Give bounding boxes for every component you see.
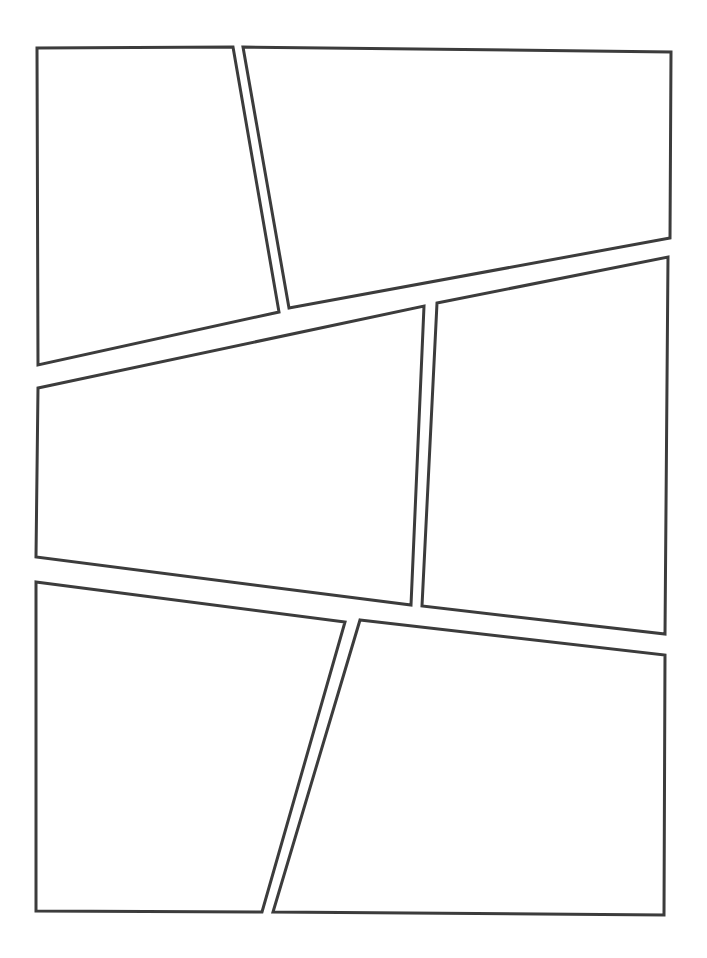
comic-panel-1[interactable] <box>37 47 279 365</box>
comic-panel-4[interactable] <box>422 257 668 634</box>
comic-page-canvas <box>0 0 707 958</box>
comic-page <box>0 0 707 958</box>
